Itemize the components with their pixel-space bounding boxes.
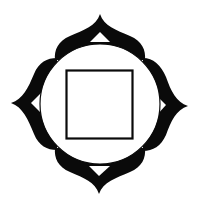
inner-circle xyxy=(40,44,160,164)
lotus-svg xyxy=(0,0,200,211)
lotus-diagram: Four-petaled lotus with circle and inner… xyxy=(0,0,200,211)
